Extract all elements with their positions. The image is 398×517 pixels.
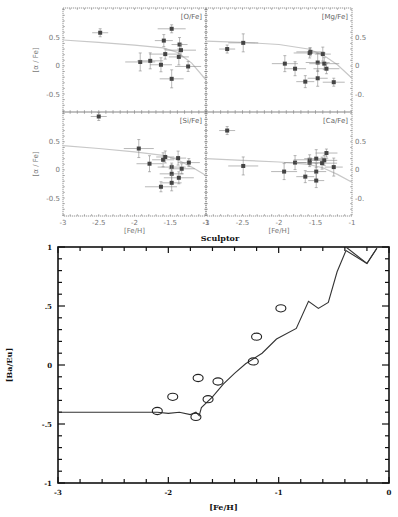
y-tick-label: 0 [56, 166, 60, 174]
data-point [332, 80, 336, 84]
y-tick-label: 0 [47, 361, 52, 370]
observation-marker [203, 396, 213, 403]
chart-title: Sculptor [201, 233, 240, 243]
model-line [58, 248, 377, 416]
data-point [179, 48, 183, 52]
x-tick-label: 0 [387, 488, 392, 497]
x-tick-label: -1 [349, 219, 356, 227]
y-tick-label: 0.5 [49, 34, 60, 42]
data-point [225, 47, 229, 51]
y-tick-label: 0.5 [355, 138, 366, 146]
y-tick-label: 0.5 [355, 34, 366, 42]
data-point [187, 161, 191, 165]
data-point [241, 41, 245, 45]
data-point [303, 175, 307, 179]
panel-label: [O/Fe] [181, 13, 203, 21]
model-line [206, 159, 352, 183]
model-line [206, 41, 352, 78]
y-tick-label: -0. [355, 195, 364, 203]
x-tick-label: -2.5 [236, 219, 250, 227]
data-point [308, 50, 312, 54]
data-point [137, 147, 141, 151]
y-tick-label: -0.5 [46, 195, 60, 203]
x-tick-label: -3 [60, 219, 67, 227]
y-tick-label: -1 [44, 479, 52, 488]
x-tick-label: -3 [203, 219, 210, 227]
data-point [303, 80, 307, 84]
figure-canvas: [O/Fe]0.50-0.5[α / Fe][Mg/Fe]0.50-0.[Si/… [0, 0, 398, 517]
observation-marker [213, 378, 223, 385]
data-point [321, 52, 325, 56]
observation-marker [191, 413, 201, 420]
x-tick-label: -2 [164, 488, 172, 497]
y-tick-label: 0 [355, 166, 359, 174]
data-point [162, 39, 166, 43]
panel-sculptor: Sculptor1.50-.5-1-3-2-10[Fe/H][Ba/Eu] [4, 233, 392, 512]
x-tick-label: -1.5 [309, 219, 323, 227]
panel-label: [Ca/Fe] [323, 117, 348, 125]
data-point [170, 27, 174, 31]
x-tick-label: -3 [54, 488, 62, 497]
data-point [163, 155, 167, 159]
data-point [332, 165, 336, 169]
panel-frame [206, 112, 352, 216]
y-tick-label: 1 [47, 243, 52, 252]
data-point [177, 176, 181, 180]
panel-frame [63, 8, 206, 112]
data-point [282, 170, 286, 174]
x-axis-title: [Fe/H] [209, 502, 237, 512]
data-point [148, 59, 152, 63]
panel-mgfe: [Mg/Fe]0.50-0. [206, 8, 366, 112]
y-tick-label: 0 [56, 62, 60, 70]
data-point [225, 129, 229, 133]
panel-label: [Mg/Fe] [322, 13, 349, 21]
y-axis-title: [α / Fe] [32, 47, 40, 72]
data-point [97, 114, 101, 118]
data-point [170, 77, 174, 81]
data-point [293, 67, 297, 71]
data-point [324, 67, 328, 71]
observation-marker [248, 358, 258, 365]
data-point [163, 52, 167, 56]
x-tick-label: -2 [276, 219, 283, 227]
x-tick-label: -1 [275, 488, 283, 497]
panel-sife: [Si/Fe]0.50-0.5-3-2.5-2-1.5-1[Fe/H][α / … [32, 112, 209, 235]
y-tick-label: -0.5 [46, 91, 60, 99]
x-tick-label: -2.5 [92, 219, 106, 227]
data-point [159, 185, 163, 189]
data-point [180, 167, 184, 171]
y-tick-label: .5 [45, 302, 52, 311]
figure: [O/Fe]0.50-0.5[α / Fe][Mg/Fe]0.50-0.[Si/… [0, 0, 398, 517]
observation-marker [152, 407, 162, 414]
y-tick-label: -.5 [42, 420, 52, 429]
panel-ofe: [O/Fe]0.50-0.5[α / Fe] [32, 8, 206, 112]
data-point [177, 55, 181, 59]
model-line [63, 40, 206, 80]
data-point [314, 170, 318, 174]
data-point [176, 156, 180, 160]
x-axis-title: [Fe/H] [268, 227, 289, 235]
data-point [314, 179, 318, 183]
panel-label: [Si/Fe] [180, 117, 202, 125]
data-point [186, 64, 190, 68]
data-point [308, 161, 312, 165]
data-point [148, 162, 152, 166]
data-point [316, 76, 320, 80]
y-axis-title: [α / Fe] [32, 151, 40, 176]
panel-frame [58, 247, 389, 483]
observation-marker [276, 305, 286, 312]
y-tick-label: -0. [355, 91, 364, 99]
observation-marker [168, 393, 178, 400]
data-point [241, 164, 245, 168]
y-tick-label: 0 [355, 62, 359, 70]
data-point [98, 31, 102, 35]
observation-marker [193, 374, 203, 381]
x-tick-label: -2 [131, 219, 138, 227]
model-line [63, 146, 206, 176]
data-point [322, 158, 326, 162]
observation-marker [252, 333, 262, 340]
data-point [324, 151, 328, 155]
y-axis-title: [Ba/Eu] [4, 348, 14, 382]
data-point [283, 62, 287, 66]
data-point [170, 181, 174, 185]
